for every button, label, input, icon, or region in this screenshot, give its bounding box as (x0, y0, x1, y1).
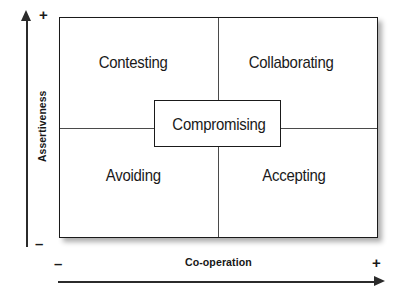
horizontal-axis-label-text: Co-operation (185, 256, 252, 268)
vertical-axis-label-text: Assertiveness (36, 90, 48, 161)
horizontal-axis-arrow-icon (374, 276, 385, 286)
quadrant-label-collaborating: Collaborating (249, 53, 334, 73)
compromising-box: Compromising (154, 100, 281, 147)
quadrant-label-avoiding: Avoiding (106, 166, 161, 186)
vertical-axis-line (26, 18, 28, 247)
horizontal-axis-minus-sign: – (54, 256, 62, 271)
vertical-axis-label: Assertiveness (36, 76, 48, 176)
vertical-axis-minus-sign: – (35, 236, 43, 251)
horizontal-axis-plus-sign: + (372, 255, 381, 270)
compromising-label: Compromising (155, 101, 282, 148)
vertical-axis-plus-sign: + (39, 7, 48, 22)
quadrant-label-accepting: Accepting (262, 166, 325, 186)
compromising-label-text: Compromising (172, 115, 265, 135)
conflict-matrix-diagram: + – Assertiveness Contesting Collaborati… (0, 0, 406, 303)
horizontal-axis-label: Co-operation (158, 256, 278, 268)
horizontal-axis-line (58, 281, 378, 283)
quadrant-label-contesting: Contesting (99, 53, 168, 73)
